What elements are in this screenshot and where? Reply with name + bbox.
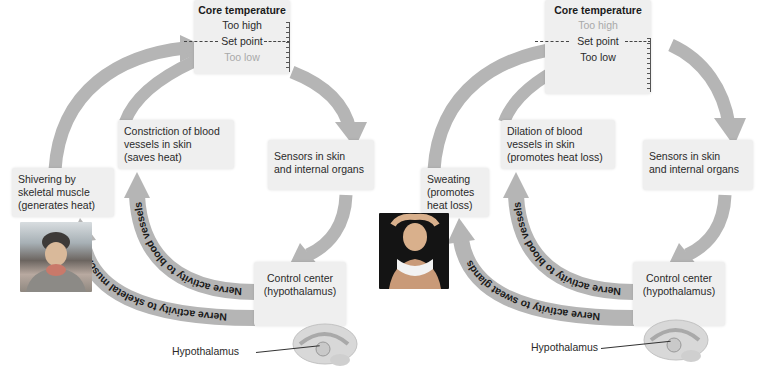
effector-constriction-box: Constriction of blood vessels in skin (s… — [118, 120, 234, 169]
core-temperature-box: Core temperature Too high Set point Too … — [194, 0, 290, 74]
too-high-label: Too high — [545, 17, 651, 33]
control-center-box: Control center (hypothalamus) — [254, 262, 346, 326]
temperature-scale — [647, 38, 651, 92]
core-temperature-title: Core temperature — [545, 4, 651, 17]
too-low-label: Too low — [194, 49, 290, 65]
effector-shivering-box: Shivering by skeletal muscle (generates … — [12, 168, 114, 217]
hypothalamus-label: Hypothalamus — [172, 345, 239, 357]
temperature-scale — [286, 22, 290, 72]
too-high-label: Too high — [194, 17, 290, 33]
set-point-label: Set point — [194, 33, 290, 49]
effector-sweating-box: Sweating (promotes heat loss) — [421, 168, 489, 217]
core-temperature-box: Core temperature Too high Set point Too … — [545, 0, 651, 94]
sensors-box: Sensors in skin and internal organs — [268, 140, 374, 190]
brain-icon — [290, 322, 360, 370]
effector-dilation-box: Dilation of blood vessels in skin (promo… — [501, 120, 615, 169]
set-point-label: Set point — [545, 33, 651, 49]
hypothalamus-label: Hypothalamus — [531, 341, 598, 353]
person-icon — [379, 213, 449, 289]
right-diagram-heat-response: Nerve activity to blood vessels Nerve ac… — [379, 0, 759, 371]
sweating-person-photo — [379, 213, 449, 289]
shivering-person-photo — [20, 222, 92, 292]
core-temperature-title: Core temperature — [194, 4, 290, 17]
control-center-box: Control center (hypothalamus) — [633, 262, 725, 326]
person-icon — [20, 222, 92, 292]
sensors-box: Sensors in skin and internal organs — [643, 140, 753, 190]
left-diagram-cold-response: Nerve activity to blood vessels Nerve ac… — [0, 0, 380, 371]
too-low-label: Too low — [545, 49, 651, 65]
